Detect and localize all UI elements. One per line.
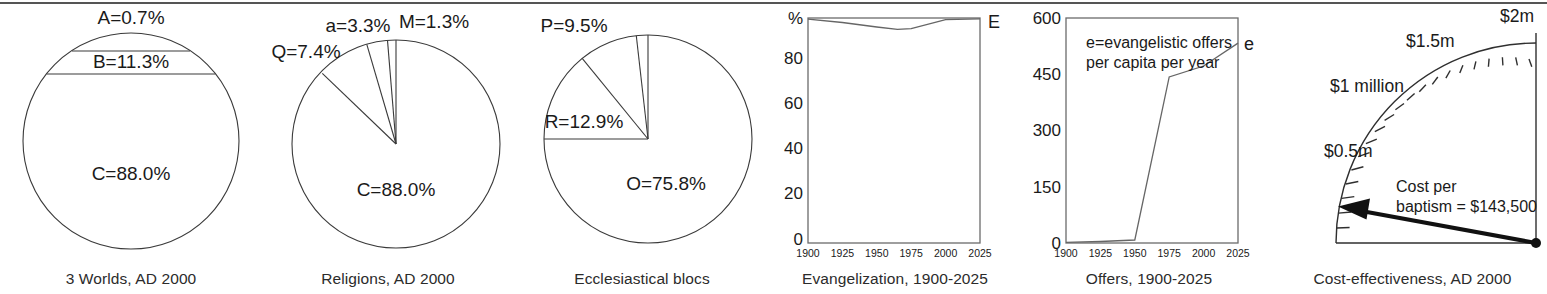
evangelization-ytick-80: 80	[784, 49, 803, 68]
worlds-label-a: A=0.7%	[97, 7, 164, 28]
blocs-label-o: O=75.8%	[626, 173, 706, 194]
offers-note-line1: e=evangelistic offers	[1086, 34, 1232, 51]
evangelization-xtick-2000: 2000	[934, 247, 958, 259]
evangelization-line-chart: % 80 60 40 20 0 1900 1925 1950 1975 2000…	[770, 0, 1020, 262]
gauge-pivot	[1531, 238, 1541, 248]
offers-ytick-150: 150	[1033, 178, 1061, 197]
gauge-needle-arrowhead	[1338, 199, 1370, 220]
evangelization-xtick-1975: 1975	[900, 247, 924, 259]
offers-xtick-2025: 2025	[1226, 247, 1250, 259]
offers-ytick-300: 300	[1033, 121, 1061, 140]
evangelization-xtick-1950: 1950	[865, 247, 889, 259]
offers-xtick-1925: 1925	[1089, 247, 1113, 259]
gauge-label-1-5m: $1.5m	[1406, 31, 1455, 51]
panel-evangelization: % 80 60 40 20 0 1900 1925 1950 1975 2000…	[770, 0, 1020, 294]
caption-offers: Offers, 1900-2025	[1020, 270, 1278, 288]
caption-religions: Religions, AD 2000	[262, 270, 514, 288]
offers-xtick-1900: 1900	[1054, 247, 1078, 259]
evangelization-ytick-40: 40	[784, 139, 803, 158]
evangelization-plot-frame	[808, 18, 980, 243]
offers-ytick-600: 600	[1033, 9, 1061, 28]
cost-effectiveness-gauge: $0.5m $1 million $1.5m $2m Cost per bapt…	[1278, 0, 1547, 262]
evangelization-series-line	[808, 19, 980, 29]
offers-xtick-2000: 2000	[1192, 247, 1216, 259]
offers-xtick-1950: 1950	[1123, 247, 1147, 259]
offers-line-chart: 600 450 300 150 0 1900 1925 1950 1975 20…	[1020, 0, 1278, 262]
religions-pie-chart: a=3.3% M=1.3% Q=7.4% C=88.0%	[262, 0, 514, 262]
worlds-label-b: B=11.3%	[93, 51, 169, 72]
evangelization-ytick-60: 60	[784, 94, 803, 113]
evangelization-xtick-1925: 1925	[831, 247, 855, 259]
evangelization-xtick-1900: 1900	[796, 247, 820, 259]
religions-label-c: C=88.0%	[357, 179, 436, 200]
blocs-pie-chart: P=9.5% R=12.9% O=75.8%	[514, 0, 770, 262]
offers-series-line	[1066, 43, 1238, 242]
offers-xtick-1975: 1975	[1158, 247, 1182, 259]
cost-note-line1: Cost per	[1396, 178, 1457, 195]
religions-label-a: a=3.3%	[326, 15, 391, 36]
caption-cost-effectiveness: Cost-effectiveness, AD 2000	[1278, 270, 1547, 288]
panel-three-worlds: A=0.7% B=11.3% C=88.0% 3 Worlds, AD 2000	[0, 0, 262, 294]
caption-ecclesiastical-blocs: Ecclesiastical blocs	[514, 270, 770, 288]
religions-label-q: Q=7.4%	[271, 41, 340, 62]
evangelization-xtick-2025: 2025	[968, 247, 992, 259]
gauge-label-2m: $2m	[1500, 6, 1534, 26]
worlds-label-c: C=88.0%	[92, 163, 171, 184]
evangelization-ytick-percent: %	[788, 9, 803, 28]
panel-cost-effectiveness: $0.5m $1 million $1.5m $2m Cost per bapt…	[1278, 0, 1547, 294]
evangelization-series-label: E	[988, 12, 1000, 32]
blocs-label-r: R=12.9%	[545, 111, 624, 132]
blocs-slice-edge-small	[636, 36, 648, 139]
evangelization-ytick-20: 20	[784, 184, 803, 203]
offers-plot-frame	[1066, 18, 1238, 243]
panel-ecclesiastical-blocs: P=9.5% R=12.9% O=75.8% Ecclesiastical bl…	[514, 0, 770, 294]
figure-panel-row: A=0.7% B=11.3% C=88.0% 3 Worlds, AD 2000…	[0, 0, 1547, 294]
offers-note-line2: per capita per year	[1086, 54, 1220, 71]
offers-series-label: e	[1244, 34, 1254, 54]
three-worlds-diagram: A=0.7% B=11.3% C=88.0%	[0, 0, 262, 262]
panel-religions: a=3.3% M=1.3% Q=7.4% C=88.0% Religions, …	[262, 0, 514, 294]
caption-evangelization: Evangelization, 1900-2025	[770, 270, 1020, 288]
gauge-label-0-5m: $0.5m	[1324, 141, 1373, 161]
cost-note-line2: baptism = $143,500	[1396, 198, 1537, 215]
blocs-label-p: P=9.5%	[540, 15, 607, 36]
gauge-label-1-million: $1 million	[1330, 76, 1404, 96]
caption-three-worlds: 3 Worlds, AD 2000	[0, 270, 262, 288]
panel-offers: 600 450 300 150 0 1900 1925 1950 1975 20…	[1020, 0, 1278, 294]
offers-ytick-450: 450	[1033, 65, 1061, 84]
religions-label-m: M=1.3%	[399, 11, 469, 32]
religions-slice-edge-q	[322, 73, 396, 144]
